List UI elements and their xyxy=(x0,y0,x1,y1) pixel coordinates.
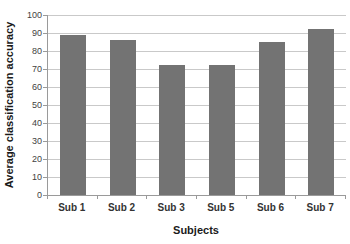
gridline xyxy=(48,159,346,160)
y-tick-label: 50 xyxy=(0,100,42,110)
y-tick-label: 70 xyxy=(0,64,42,74)
gridline xyxy=(48,33,346,34)
gridline xyxy=(48,177,346,178)
bar-sub-5 xyxy=(209,65,235,196)
x-axis-tick xyxy=(196,196,197,199)
x-category-label: Sub 3 xyxy=(146,202,196,213)
y-tick-label: 80 xyxy=(0,46,42,56)
x-category-label: Sub 1 xyxy=(47,202,97,213)
x-axis-tick xyxy=(246,196,247,199)
y-tick-label: 40 xyxy=(0,118,42,128)
x-axis-tick xyxy=(345,196,346,199)
bar-sub-1 xyxy=(60,35,86,195)
x-axis-tick xyxy=(47,196,48,199)
gridline xyxy=(48,15,346,16)
plot-area xyxy=(47,15,346,196)
y-tick-label: 10 xyxy=(0,172,42,182)
x-category-label: Sub 7 xyxy=(295,202,345,213)
gridline xyxy=(48,105,346,106)
y-axis-tick xyxy=(43,87,47,88)
gridline xyxy=(48,87,346,88)
bar-chart-figure: Average classification accuracy Subjects… xyxy=(0,0,350,244)
x-axis-tick xyxy=(97,196,98,199)
y-axis-tick xyxy=(43,177,47,178)
gridline xyxy=(48,69,346,70)
y-tick-label: 100 xyxy=(0,10,42,20)
bar-sub-6 xyxy=(259,42,285,195)
y-axis-tick xyxy=(43,123,47,124)
y-tick-label: 20 xyxy=(0,154,42,164)
x-category-label: Sub 5 xyxy=(196,202,246,213)
y-tick-label: 30 xyxy=(0,136,42,146)
y-axis-tick xyxy=(43,33,47,34)
gridline xyxy=(48,123,346,124)
y-axis-tick xyxy=(43,51,47,52)
y-axis-tick xyxy=(43,141,47,142)
y-axis-tick xyxy=(43,159,47,160)
x-category-label: Sub 2 xyxy=(97,202,147,213)
y-tick-label: 60 xyxy=(0,82,42,92)
y-tick-label: 0 xyxy=(0,190,42,200)
x-axis-title: Subjects xyxy=(47,224,345,236)
x-category-label: Sub 6 xyxy=(246,202,296,213)
bar-sub-2 xyxy=(110,40,136,195)
gridline xyxy=(48,51,346,52)
gridline xyxy=(48,141,346,142)
bar-sub-3 xyxy=(159,65,185,196)
y-axis-tick xyxy=(43,15,47,16)
y-tick-label: 90 xyxy=(0,28,42,38)
y-axis-tick xyxy=(43,105,47,106)
x-axis-tick xyxy=(295,196,296,199)
bar-sub-7 xyxy=(308,29,334,196)
y-axis-tick xyxy=(43,69,47,70)
x-axis-tick xyxy=(146,196,147,199)
